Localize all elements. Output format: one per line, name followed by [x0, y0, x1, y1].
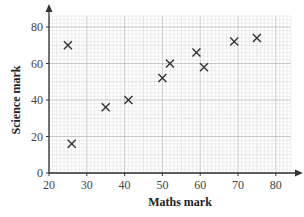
- y-tick-label: 60: [31, 57, 43, 71]
- scatter-chart: 20304050607080020406080 Maths mark Scien…: [0, 0, 304, 217]
- y-tick-label: 80: [31, 20, 43, 34]
- x-tick-label: 40: [119, 178, 131, 192]
- y-tick-label: 20: [31, 130, 43, 144]
- y-tick-label: 0: [37, 166, 43, 180]
- y-axis-title: Science mark: [9, 65, 23, 134]
- x-tick-label: 60: [194, 178, 206, 192]
- x-tick-label: 30: [81, 178, 93, 192]
- x-tick-label: 20: [43, 178, 55, 192]
- x-tick-label: 50: [156, 178, 168, 192]
- y-axis-arrow-icon: [46, 4, 53, 12]
- x-tick-label: 70: [232, 178, 244, 192]
- y-tick-label: 40: [31, 93, 43, 107]
- x-axis-title: Maths mark: [148, 195, 212, 209]
- x-tick-label: 80: [270, 178, 282, 192]
- x-axis-arrow-icon: [295, 170, 303, 177]
